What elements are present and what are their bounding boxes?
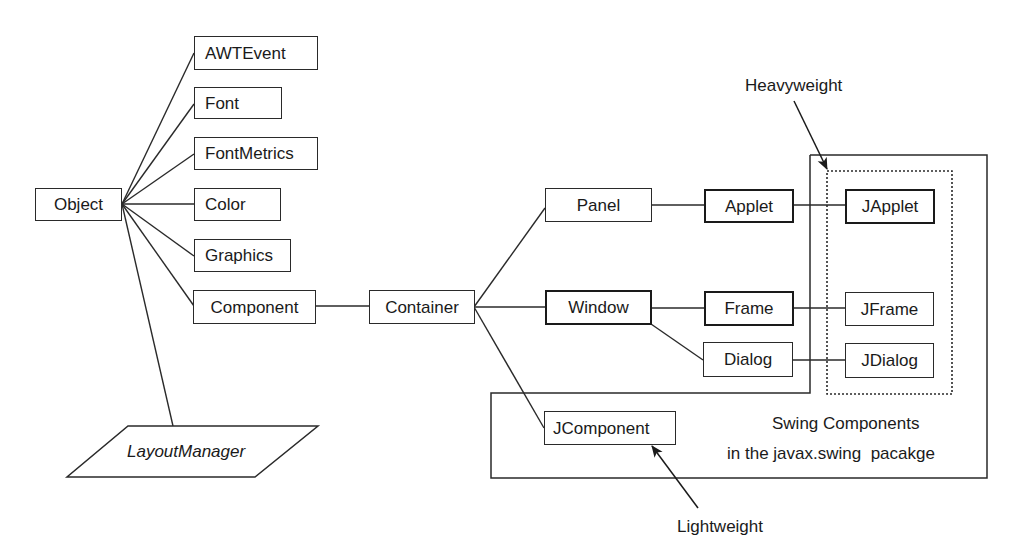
node-jdialog-label: JDialog [861, 352, 918, 369]
node-window-label: Window [568, 299, 628, 316]
swing-caption-line2: in the javax.swing pacakge [727, 445, 935, 462]
node-awtevent-label: AWTEvent [205, 45, 286, 62]
node-layoutmanager-label: LayoutManager [127, 443, 245, 460]
node-frame: Frame [704, 291, 794, 326]
swing-caption-line1: Swing Components [772, 415, 919, 432]
node-applet-label: Applet [725, 198, 773, 215]
node-font: Font [194, 87, 282, 119]
node-component-label: Component [211, 299, 299, 316]
node-color-label: Color [205, 196, 246, 213]
node-panel-label: Panel [577, 197, 620, 214]
node-font-label: Font [205, 95, 239, 112]
node-panel: Panel [545, 188, 652, 222]
node-japplet: JApplet [845, 189, 935, 224]
node-japplet-label: JApplet [862, 198, 919, 215]
node-dialog-label: Dialog [724, 351, 772, 368]
node-awtevent: AWTEvent [194, 36, 318, 70]
node-component: Component [193, 290, 316, 324]
node-applet: Applet [704, 189, 794, 223]
node-color: Color [194, 188, 281, 221]
node-frame-label: Frame [724, 300, 773, 317]
node-jdialog: JDialog [845, 343, 934, 378]
node-object: Object [35, 188, 122, 221]
node-fontmetrics-label: FontMetrics [205, 145, 294, 162]
node-container-label: Container [385, 299, 459, 316]
node-jframe-label: JFrame [861, 301, 919, 318]
node-jcomponent: JComponent [544, 411, 676, 445]
node-graphics-label: Graphics [205, 247, 273, 264]
node-jframe: JFrame [845, 292, 934, 326]
node-jcomponent-label: JComponent [553, 420, 649, 437]
node-graphics: Graphics [194, 239, 291, 272]
heavyweight-label: Heavyweight [745, 77, 842, 94]
node-dialog: Dialog [703, 342, 793, 377]
node-object-label: Object [54, 196, 103, 213]
class-hierarchy-diagram: Object AWTEvent Font FontMetrics Color G… [0, 0, 1020, 560]
lightweight-label: Lightweight [677, 518, 763, 535]
node-fontmetrics: FontMetrics [194, 137, 318, 170]
lightweight-arrow [652, 446, 698, 508]
node-window: Window [545, 290, 652, 325]
node-container: Container [369, 290, 475, 324]
connector-lines [0, 0, 1020, 560]
